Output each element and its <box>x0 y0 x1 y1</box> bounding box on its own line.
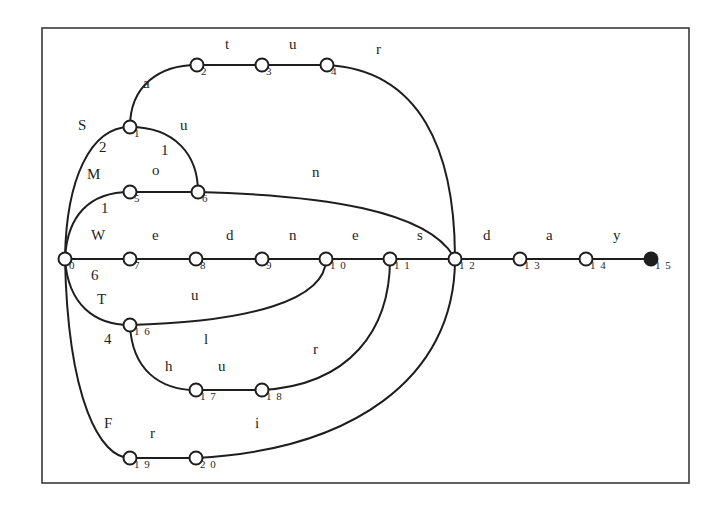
edge-16-to-10 <box>130 259 326 325</box>
transition-label: 6 <box>91 267 99 283</box>
state-node: 8 <box>190 253 207 272</box>
transition-label: d <box>483 227 491 243</box>
state-id-label: 1 <box>134 127 141 139</box>
state-node: 1 7 <box>190 384 217 403</box>
state-id-label: 5 <box>134 192 141 204</box>
state-id-label: 7 <box>134 259 141 271</box>
state-id-label: 1 2 <box>459 259 476 271</box>
transition-label: d <box>226 227 234 243</box>
transition-label: M <box>87 166 100 182</box>
state-node: 1 1 <box>384 253 411 272</box>
transition-label: t <box>225 36 230 52</box>
transition-label: u <box>191 287 199 303</box>
transition-label: r <box>150 425 155 441</box>
state-id-label: 2 <box>201 65 208 77</box>
state-node: 7 <box>124 253 141 272</box>
transition-label: a <box>546 227 553 243</box>
state-id-label: 1 3 <box>524 259 541 271</box>
automaton-diagram: 01234567891 01 11 21 31 41 51 61 71 81 9… <box>0 0 726 508</box>
transition-label: y <box>613 227 621 243</box>
edge-6-to-12 <box>198 192 455 259</box>
transition-label: e <box>352 227 359 243</box>
transition-label: F <box>104 415 112 431</box>
transition-label: s <box>417 227 423 243</box>
transition-label: T <box>97 291 106 307</box>
edge-0-to-5 <box>65 192 130 259</box>
state-id-label: 1 4 <box>590 259 607 271</box>
state-id-label: 0 <box>69 259 76 271</box>
final-state-node: 1 5 <box>645 253 672 272</box>
state-node: 2 <box>191 59 208 78</box>
state-node: 6 <box>192 186 209 205</box>
state-id-label: 1 9 <box>134 458 151 470</box>
state-node: 4 <box>321 59 338 78</box>
nodes-layer: 01234567891 01 11 21 31 41 51 61 71 81 9… <box>59 59 672 471</box>
state-id-label: 1 0 <box>330 259 347 271</box>
transition-label: h <box>165 358 173 374</box>
transition-label: u <box>180 117 188 133</box>
transition-label: 1 <box>161 142 169 158</box>
state-node: 1 6 <box>124 319 151 338</box>
transition-label: W <box>91 227 106 243</box>
edge-18-to-11 <box>262 259 390 390</box>
transition-label: i <box>255 415 259 431</box>
state-node: 0 <box>59 253 76 272</box>
state-node: 1 8 <box>256 384 283 403</box>
edge-20-to-12 <box>196 259 455 458</box>
transition-label: l <box>204 331 208 347</box>
transition-label: 1 <box>101 200 109 216</box>
state-id-label: 1 5 <box>655 259 672 271</box>
state-id-label: 1 6 <box>134 325 151 337</box>
transition-label: e <box>152 227 159 243</box>
state-id-label: 1 7 <box>200 390 217 402</box>
edge-4-to-12 <box>327 65 455 259</box>
transition-label: o <box>152 162 160 178</box>
state-id-label: 2 0 <box>200 458 217 470</box>
state-node: 1 4 <box>580 253 607 272</box>
state-id-label: 9 <box>266 259 273 271</box>
transition-label: S <box>78 117 86 133</box>
state-node: 3 <box>256 59 273 78</box>
state-id-label: 1 8 <box>266 390 283 402</box>
transition-label: u <box>218 358 226 374</box>
state-node: 1 9 <box>124 452 151 471</box>
state-node: 1 0 <box>320 253 347 272</box>
transition-label: r <box>376 41 381 57</box>
state-id-label: 8 <box>200 259 207 271</box>
state-node: 9 <box>256 253 273 272</box>
state-node: 1 2 <box>449 253 476 272</box>
state-id-label: 6 <box>202 192 209 204</box>
transition-label: n <box>312 164 320 180</box>
transition-label: 2 <box>99 139 107 155</box>
edges-layer <box>65 65 651 458</box>
state-node: 2 0 <box>190 452 217 471</box>
state-id-label: 3 <box>266 65 273 77</box>
edge-0-to-19 <box>65 259 130 458</box>
state-node: 5 <box>124 186 141 205</box>
state-node: 1 3 <box>514 253 541 272</box>
state-id-label: 1 1 <box>394 259 411 271</box>
transition-label: r <box>313 341 318 357</box>
transition-label: a <box>143 75 150 91</box>
transition-label: u <box>289 36 297 52</box>
state-id-label: 4 <box>331 65 338 77</box>
transition-label: 4 <box>104 331 112 347</box>
transition-label: n <box>289 227 297 243</box>
state-node: 1 <box>124 121 141 140</box>
